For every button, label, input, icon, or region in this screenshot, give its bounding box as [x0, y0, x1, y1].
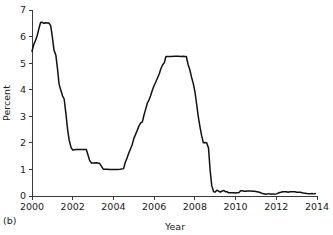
line-chart: 01234567 2000200220042006200820102012201…	[0, 0, 333, 235]
y-tick-label: 3	[20, 111, 26, 122]
y-tick-label: 5	[20, 58, 26, 69]
panel-label: (b)	[3, 215, 16, 226]
x-tick-label: 2010	[223, 201, 247, 212]
y-axis-title: Percent	[1, 85, 12, 121]
y-tick-label: 6	[20, 31, 26, 42]
x-tick-label: 2006	[142, 201, 166, 212]
y-tick-label: 7	[20, 4, 26, 15]
chart-background	[0, 0, 333, 235]
x-tick-label: 2014	[305, 201, 329, 212]
y-tick-label: 4	[20, 84, 26, 95]
x-tick-label: 2004	[101, 201, 125, 212]
x-tick-label: 2000	[20, 201, 44, 212]
x-tick-label: 2008	[183, 201, 207, 212]
x-tick-label: 2002	[61, 201, 85, 212]
y-tick-label: 0	[20, 190, 26, 201]
y-tick-label: 1	[20, 164, 26, 175]
y-tick-label: 2	[20, 137, 26, 148]
chart-figure: 01234567 2000200220042006200820102012201…	[0, 0, 333, 235]
x-tick-label: 2012	[264, 201, 288, 212]
x-axis-title: Year	[164, 221, 185, 232]
